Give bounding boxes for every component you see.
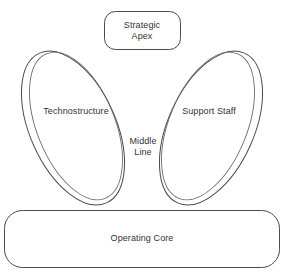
support-staff-ellipse-outer — [138, 36, 283, 221]
technostructure-shape[interactable] — [0, 36, 145, 221]
support-staff-label: Support Staff — [159, 106, 259, 117]
technostructure-label: Technostructure — [26, 106, 126, 117]
technostructure-ellipse-outer — [0, 36, 145, 221]
middle-line-label: Middle Line — [113, 136, 173, 158]
support-staff-shape[interactable] — [138, 36, 283, 221]
operating-core-label: Operating Core — [82, 233, 202, 244]
organizational-structure-diagram: Strategic Apex Technostructure Support S… — [0, 0, 284, 275]
strategic-apex-label: Strategic Apex — [107, 20, 177, 42]
